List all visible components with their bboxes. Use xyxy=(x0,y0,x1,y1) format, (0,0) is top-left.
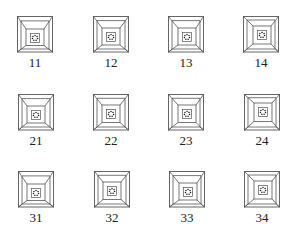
cell-label: 24 xyxy=(237,134,287,148)
pyramid-cell-33: 33 xyxy=(169,171,219,231)
cell-label: 11 xyxy=(10,56,60,70)
pyramid-cell-21: 21 xyxy=(18,94,68,154)
pyramid-cell-31: 31 xyxy=(18,171,68,231)
pyramid-frustum-icon xyxy=(17,16,53,53)
cell-label: 33 xyxy=(162,211,212,225)
pyramid-cell-14: 14 xyxy=(243,16,293,76)
pyramid-cell-13: 13 xyxy=(168,16,218,76)
pyramid-cell-11: 11 xyxy=(17,16,67,76)
pyramid-cell-32: 32 xyxy=(94,171,144,231)
pyramid-frustum-icon xyxy=(93,16,129,53)
pyramid-cell-24: 24 xyxy=(244,94,294,154)
cell-label: 21 xyxy=(11,134,61,148)
pyramid-frustum-icon xyxy=(94,171,130,208)
pyramid-frustum-icon xyxy=(168,94,204,131)
pyramid-frustum-icon xyxy=(168,16,204,53)
pyramid-frustum-icon xyxy=(243,16,279,53)
cell-label: 13 xyxy=(161,56,211,70)
cell-label: 32 xyxy=(87,211,137,225)
pyramid-cell-22: 22 xyxy=(93,94,143,154)
pyramid-frustum-icon xyxy=(18,171,54,208)
cell-label: 14 xyxy=(236,56,286,70)
cell-label: 22 xyxy=(86,134,136,148)
cell-label: 12 xyxy=(86,56,136,70)
cell-label: 23 xyxy=(161,134,211,148)
pyramid-cell-34: 34 xyxy=(244,171,294,231)
pyramid-cell-23: 23 xyxy=(168,94,218,154)
cell-label: 34 xyxy=(237,211,287,225)
pyramid-frustum-icon xyxy=(244,171,280,208)
pyramid-frustum-icon xyxy=(93,94,129,131)
pyramid-frustum-icon xyxy=(244,94,280,131)
pyramid-cell-12: 12 xyxy=(93,16,143,76)
cell-label: 31 xyxy=(11,211,61,225)
pyramid-frustum-icon xyxy=(169,171,205,208)
pyramid-frustum-icon xyxy=(18,94,54,131)
